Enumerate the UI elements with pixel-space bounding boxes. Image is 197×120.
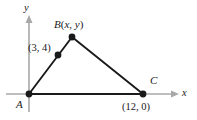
coordinate-label-3-4: (3, 4) bbox=[28, 43, 51, 54]
vertex-label-b-name: B bbox=[54, 18, 61, 30]
point-marker-a bbox=[26, 91, 33, 98]
segment-b-to-c bbox=[72, 37, 143, 94]
coordinate-label-12-0: (12, 0) bbox=[122, 102, 150, 113]
y-axis-label: y bbox=[24, 3, 29, 14]
vertex-label-b-coords: (x, y) bbox=[61, 18, 84, 30]
point-marker-c bbox=[140, 91, 147, 98]
y-axis-arrowhead bbox=[26, 15, 33, 23]
vertex-label-b: B(x, y) bbox=[54, 19, 83, 30]
figure-canvas bbox=[0, 0, 197, 120]
vertex-label-c: C bbox=[150, 75, 157, 86]
y-axis bbox=[26, 15, 33, 112]
vertex-label-a: A bbox=[16, 99, 23, 110]
triangle-figure: y x A B(x, y) C (3, 4) (12, 0) bbox=[0, 0, 197, 120]
point-marker-b bbox=[69, 34, 76, 41]
x-axis-arrowhead bbox=[171, 91, 179, 98]
x-axis-label: x bbox=[182, 88, 187, 99]
point-marker-3-4 bbox=[55, 52, 62, 59]
